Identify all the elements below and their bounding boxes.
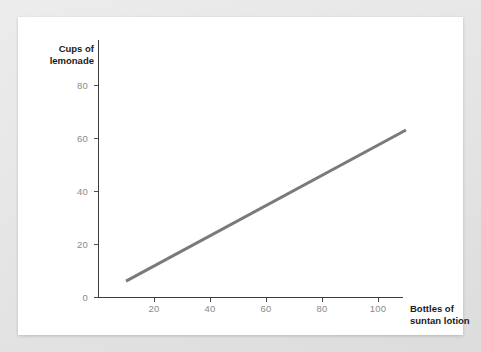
trend-line bbox=[126, 130, 406, 281]
series-svg bbox=[18, 17, 463, 335]
chart-card: 0 20 40 60 80 20 40 60 80 100 Cups of bbox=[18, 17, 463, 335]
screenshot-root: 0 20 40 60 80 20 40 60 80 100 Cups of bbox=[0, 0, 481, 352]
plot-area: 0 20 40 60 80 20 40 60 80 100 Cups of bbox=[18, 17, 463, 335]
